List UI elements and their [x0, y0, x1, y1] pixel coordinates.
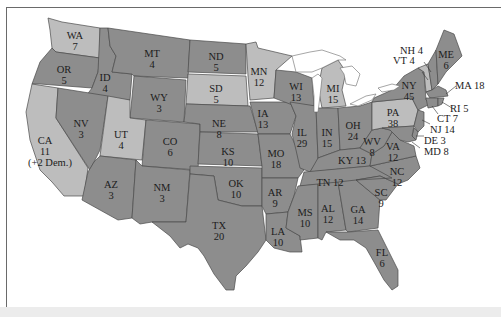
svg-text:12: 12 — [323, 214, 334, 225]
state-ri[interactable] — [438, 98, 444, 106]
svg-text:13: 13 — [258, 119, 269, 130]
label-in: IN15 — [321, 127, 332, 149]
svg-text:11: 11 — [40, 146, 50, 157]
svg-text:AL: AL — [321, 203, 335, 214]
svg-text:ND: ND — [208, 51, 224, 62]
svg-text:LA: LA — [271, 226, 285, 237]
svg-text:NM: NM — [154, 182, 172, 193]
svg-text:24: 24 — [348, 131, 359, 142]
label-al: AL12 — [321, 203, 335, 225]
svg-text:NE: NE — [212, 118, 226, 129]
svg-text:10: 10 — [300, 218, 311, 229]
svg-text:4: 4 — [102, 83, 108, 94]
svg-text:10: 10 — [231, 189, 242, 200]
svg-text:15: 15 — [322, 138, 333, 149]
svg-text:IL: IL — [297, 127, 307, 138]
label-ct: CT 7 — [437, 113, 458, 124]
svg-text:38: 38 — [388, 118, 399, 129]
svg-text:WA: WA — [67, 30, 84, 41]
svg-text:TN 12: TN 12 — [316, 177, 343, 188]
svg-text:4: 4 — [149, 59, 155, 70]
svg-text:MA 18: MA 18 — [455, 80, 484, 91]
state-ct[interactable] — [426, 98, 438, 108]
label-pa: PA38 — [387, 107, 400, 129]
svg-text:13: 13 — [291, 92, 302, 103]
label-ks: KS10 — [221, 146, 235, 168]
svg-text:ME: ME — [438, 49, 454, 60]
svg-text:15: 15 — [328, 94, 339, 105]
svg-text:6: 6 — [443, 60, 448, 71]
svg-text:29: 29 — [297, 138, 308, 149]
svg-text:NC: NC — [390, 166, 405, 177]
svg-text:SC: SC — [375, 187, 388, 198]
label-wi: WI13 — [289, 81, 303, 103]
svg-text:VT 4: VT 4 — [393, 55, 415, 66]
svg-text:PA: PA — [387, 107, 400, 118]
svg-text:WI: WI — [289, 81, 303, 92]
svg-text:7: 7 — [72, 41, 77, 52]
svg-text:3: 3 — [108, 190, 113, 201]
svg-text:8: 8 — [216, 129, 221, 140]
svg-text:12: 12 — [392, 177, 403, 188]
svg-text:GA: GA — [350, 204, 366, 215]
svg-text:CT 7: CT 7 — [437, 113, 458, 124]
svg-text:9: 9 — [378, 198, 383, 209]
label-md: MD 8 — [424, 146, 449, 157]
svg-text:MN: MN — [251, 66, 268, 77]
svg-text:6: 6 — [379, 258, 384, 269]
svg-text:OR: OR — [57, 64, 72, 75]
svg-text:5: 5 — [61, 75, 66, 86]
svg-text:(+2 Dem.): (+2 Dem.) — [28, 157, 72, 169]
svg-text:SD: SD — [209, 83, 223, 94]
svg-text:DE 3: DE 3 — [424, 135, 446, 146]
svg-text:IN: IN — [321, 127, 332, 138]
svg-text:12: 12 — [254, 77, 265, 88]
svg-text:MS: MS — [297, 207, 312, 218]
svg-text:4: 4 — [118, 140, 124, 151]
label-mi: MI15 — [327, 83, 340, 105]
svg-text:8: 8 — [369, 147, 374, 158]
svg-text:3: 3 — [159, 193, 164, 204]
label-nc: NC12 — [390, 166, 405, 188]
svg-text:NV: NV — [73, 118, 89, 129]
label-ma: MA 18 — [455, 80, 484, 91]
svg-text:WY: WY — [150, 92, 168, 103]
svg-text:20: 20 — [214, 231, 225, 242]
label-nj: NJ 14 — [430, 124, 456, 135]
svg-text:KS: KS — [221, 146, 235, 157]
label-ia: IA13 — [257, 108, 268, 130]
svg-text:MD 8: MD 8 — [424, 146, 449, 157]
svg-text:OK: OK — [228, 178, 244, 189]
svg-text:CO: CO — [163, 136, 178, 147]
svg-text:5: 5 — [213, 94, 218, 105]
svg-text:TX: TX — [212, 220, 226, 231]
label-de: DE 3 — [424, 135, 446, 146]
svg-text:FL: FL — [376, 247, 388, 258]
svg-text:NJ 14: NJ 14 — [430, 124, 456, 135]
svg-text:AZ: AZ — [104, 179, 118, 190]
svg-text:45: 45 — [404, 91, 415, 102]
svg-text:VA: VA — [386, 141, 400, 152]
label-tn: TN 12 — [316, 177, 343, 188]
us-electoral-map: WA7 OR5 CA11(+2 Dem.) ID4 NV3 MT4 WY3 UT… — [0, 0, 501, 317]
label-il: IL29 — [297, 127, 308, 149]
svg-text:3: 3 — [156, 103, 161, 114]
svg-text:ID: ID — [99, 72, 110, 83]
svg-text:IA: IA — [257, 108, 268, 119]
svg-text:AR: AR — [268, 187, 283, 198]
label-ky: KY 13 — [338, 155, 366, 166]
svg-text:3: 3 — [78, 129, 83, 140]
svg-text:KY 13: KY 13 — [338, 155, 366, 166]
svg-text:9: 9 — [272, 198, 277, 209]
svg-text:10: 10 — [273, 237, 284, 248]
svg-text:CA: CA — [38, 135, 53, 146]
svg-text:6: 6 — [167, 147, 172, 158]
svg-text:MO: MO — [268, 148, 285, 159]
svg-text:18: 18 — [271, 159, 282, 170]
svg-text:OH: OH — [345, 120, 361, 131]
svg-text:5: 5 — [213, 62, 218, 73]
state-fl[interactable] — [326, 230, 398, 290]
label-va: VA12 — [386, 141, 400, 163]
svg-text:MT: MT — [144, 48, 160, 59]
svg-text:UT: UT — [114, 129, 129, 140]
